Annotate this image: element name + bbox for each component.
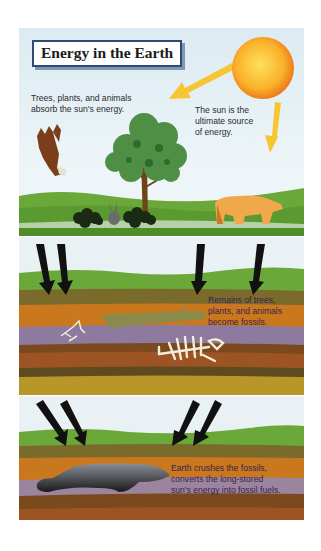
panel-fossil-fuel: Earth crushes the fossils, converts the … bbox=[19, 396, 304, 520]
caption-line: sun's energy into fossil fuels. bbox=[171, 485, 281, 496]
caption-line: Remains of trees, bbox=[208, 295, 282, 306]
eagle-icon bbox=[37, 124, 67, 176]
caption-line: Trees, plants, and animals bbox=[31, 93, 131, 104]
caption-line: converts the long-stored bbox=[171, 474, 281, 485]
caption-line: become fossils. bbox=[208, 317, 282, 328]
panel-fossil-burial: Remains of trees, plants, and animals be… bbox=[19, 237, 304, 395]
panel-sun-energy: Energy in the Earth Trees, plants, and a… bbox=[19, 28, 304, 236]
caption-line: The sun is the bbox=[195, 105, 253, 116]
caption-fossil-fuels: Earth crushes the fossils, converts the … bbox=[171, 463, 281, 496]
caption-line: absorb the sun's energy. bbox=[31, 104, 131, 115]
caption-absorb: Trees, plants, and animals absorb the su… bbox=[31, 93, 131, 115]
page-title: Energy in the Earth bbox=[32, 40, 182, 67]
caption-line: Earth crushes the fossils, bbox=[171, 463, 281, 474]
caption-sun: The sun is the ultimate source of energy… bbox=[195, 105, 253, 138]
sun-icon bbox=[232, 37, 294, 99]
caption-fossils: Remains of trees, plants, and animals be… bbox=[208, 295, 282, 328]
caption-line: plants, and animals bbox=[208, 306, 282, 317]
caption-line: ultimate source bbox=[195, 116, 253, 127]
caption-line: of energy. bbox=[195, 127, 253, 138]
panel-fossil-fuel-illustration bbox=[19, 396, 304, 520]
